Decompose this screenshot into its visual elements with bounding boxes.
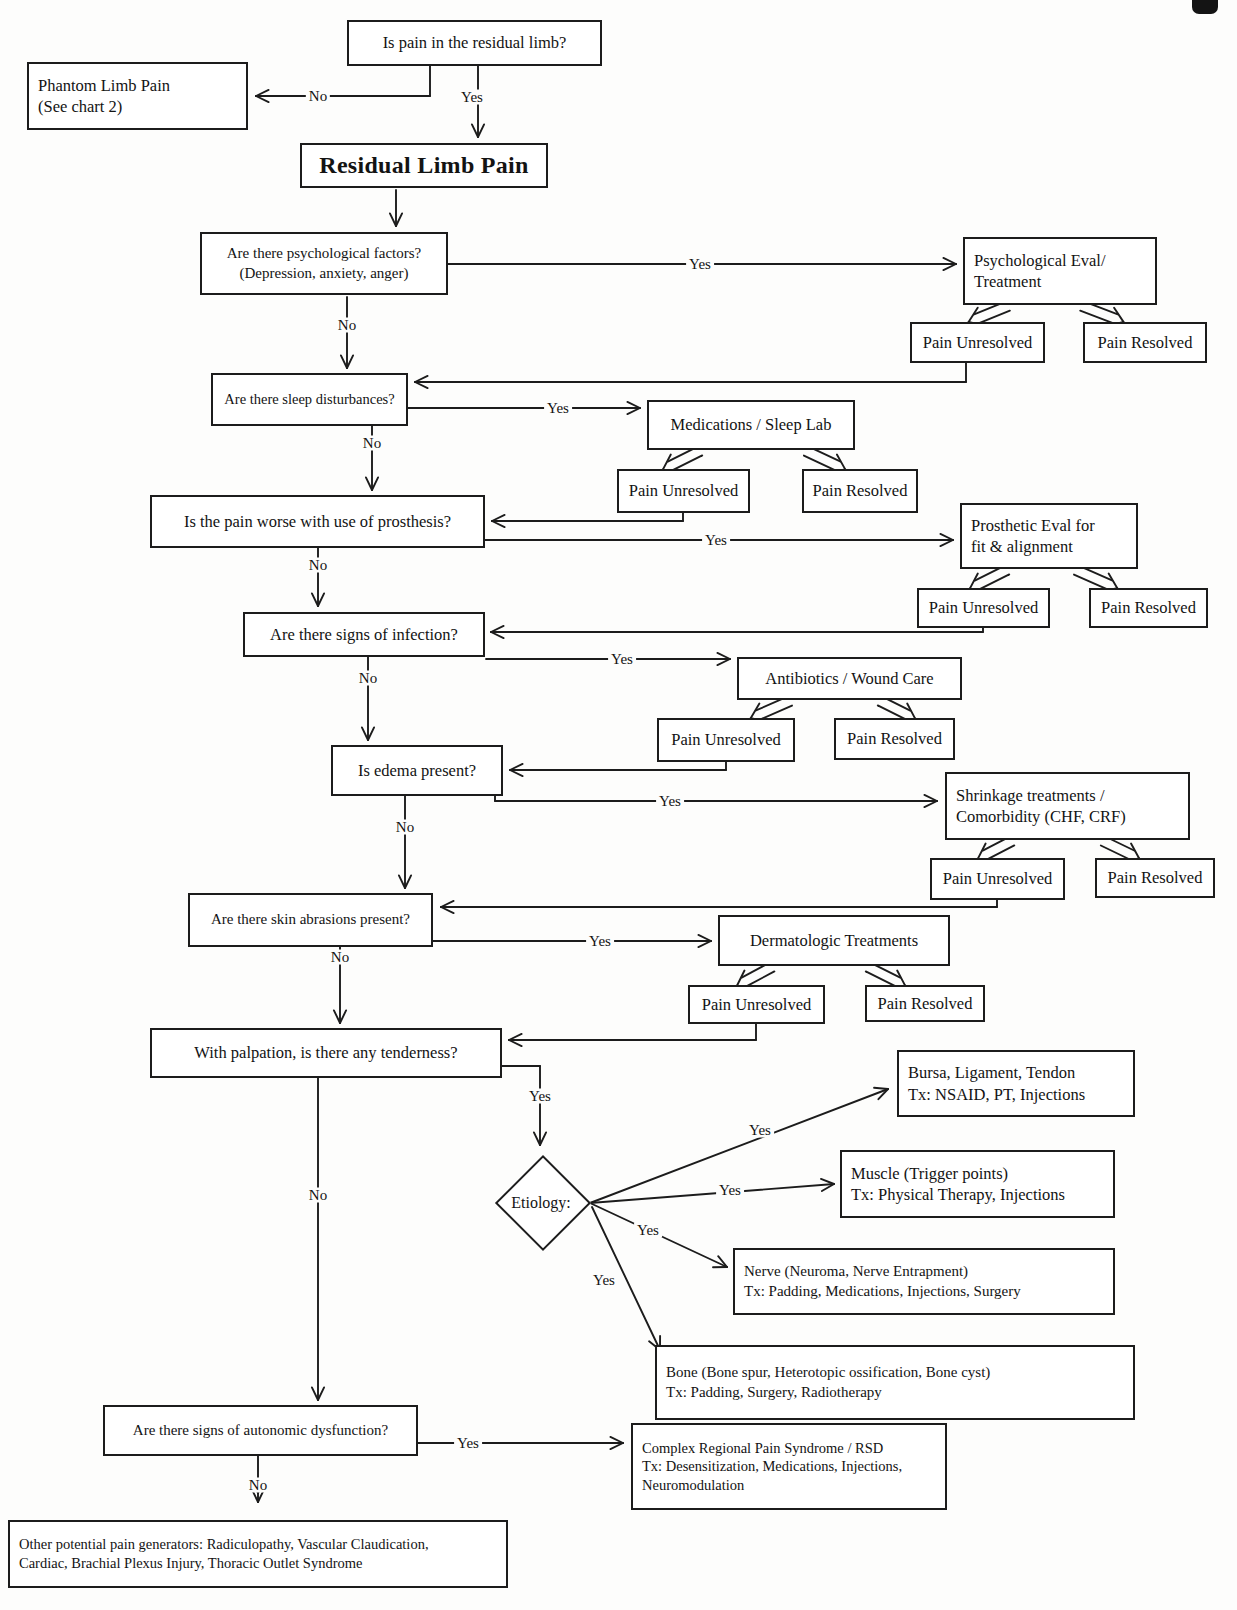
cropped-page-fragment <box>1192 0 1218 14</box>
outcome-pain-resolved: Pain Resolved <box>1089 588 1208 628</box>
edge-label-no: No <box>335 318 359 333</box>
edge-label-yes: Yes <box>716 1183 744 1198</box>
node-muscle-trigger-points: Muscle (Trigger points) Tx: Physical The… <box>840 1150 1115 1218</box>
node-other-pain-generators: Other potential pain generators: Radicul… <box>8 1520 508 1588</box>
node-medications-sleep-lab: Medications / Sleep Lab <box>647 400 855 450</box>
outcome-pain-resolved: Pain Resolved <box>1095 858 1215 898</box>
node-crps-rsd: Complex Regional Pain Syndrome / RSD Tx:… <box>631 1423 947 1510</box>
edge-label-no: No <box>306 558 330 573</box>
outcome-pain-unresolved: Pain Unresolved <box>930 858 1065 900</box>
edge-label-yes: Yes <box>686 257 714 272</box>
edge-label-yes: Yes <box>656 794 684 809</box>
node-shrinkage-treatments: Shrinkage treatments / Comorbidity (CHF,… <box>945 772 1190 840</box>
etiology-label: Etiology: <box>511 1194 571 1212</box>
node-psychological-eval: Psychological Eval/ Treatment <box>963 237 1157 305</box>
edge-label-no: No <box>246 1478 270 1493</box>
edge-label-yes: Yes <box>526 1089 554 1104</box>
edge-label-yes: Yes <box>746 1123 774 1138</box>
edge-label-no: No <box>393 820 417 835</box>
edge-label-yes: Yes <box>608 652 636 667</box>
node-residual-limb-pain-title: Residual Limb Pain <box>300 143 548 188</box>
edge-label-yes: Yes <box>590 1273 618 1288</box>
node-q-edema: Is edema present? <box>331 745 503 796</box>
node-q-infection: Are there signs of infection? <box>243 612 485 657</box>
node-phantom-limb-pain: Phantom Limb Pain (See chart 2) <box>27 62 248 130</box>
edge-label-no: No <box>360 436 384 451</box>
node-dermatologic-treatments: Dermatologic Treatments <box>718 915 950 966</box>
outcome-pain-resolved: Pain Resolved <box>802 469 918 513</box>
edge-label-no: No <box>356 671 380 686</box>
outcome-pain-resolved: Pain Resolved <box>834 718 955 760</box>
node-bursa-ligament-tendon: Bursa, Ligament, Tendon Tx: NSAID, PT, I… <box>897 1050 1135 1117</box>
outcome-pain-unresolved: Pain Unresolved <box>917 588 1050 628</box>
outcome-pain-unresolved: Pain Unresolved <box>910 322 1045 363</box>
outcome-pain-resolved: Pain Resolved <box>865 985 985 1022</box>
node-nerve-neuroma: Nerve (Neuroma, Nerve Entrapment) Tx: Pa… <box>733 1248 1115 1315</box>
node-q-psychological-factors: Are there psychological factors? (Depres… <box>200 232 448 295</box>
flowchart-canvas: Is pain in the residual limb? Phantom Li… <box>0 0 1237 1610</box>
outcome-pain-unresolved: Pain Unresolved <box>688 985 825 1024</box>
outcome-pain-unresolved: Pain Unresolved <box>657 718 795 762</box>
node-q-skin-abrasions: Are there skin abrasions present? <box>188 893 433 947</box>
outcome-pain-resolved: Pain Resolved <box>1083 322 1207 363</box>
node-q-sleep-disturbances: Are there sleep disturbances? <box>211 373 408 426</box>
node-q-residual-limb: Is pain in the residual limb? <box>347 20 602 66</box>
edge-label-no: No <box>306 1188 330 1203</box>
node-bone-spur: Bone (Bone spur, Heterotopic ossificatio… <box>655 1345 1135 1420</box>
edge-label-yes: Yes <box>544 401 572 416</box>
edge-label-no: No <box>306 89 330 104</box>
node-q-prosthesis-pain: Is the pain worse with use of prosthesis… <box>150 495 485 548</box>
node-prosthetic-eval: Prosthetic Eval for fit & alignment <box>960 503 1138 569</box>
outcome-pain-unresolved: Pain Unresolved <box>617 469 750 513</box>
edge-label-yes: Yes <box>702 533 730 548</box>
node-q-palpation-tenderness: With palpation, is there any tenderness? <box>150 1028 502 1078</box>
edge-label-no: No <box>328 950 352 965</box>
node-q-autonomic-dysfunction: Are there signs of autonomic dysfunction… <box>103 1405 418 1456</box>
node-antibiotics-wound-care: Antibiotics / Wound Care <box>737 657 962 700</box>
edge-label-yes: Yes <box>458 90 486 105</box>
edge-label-yes: Yes <box>586 934 614 949</box>
edge-label-yes: Yes <box>634 1223 662 1238</box>
edge-label-yes: Yes <box>454 1436 482 1451</box>
